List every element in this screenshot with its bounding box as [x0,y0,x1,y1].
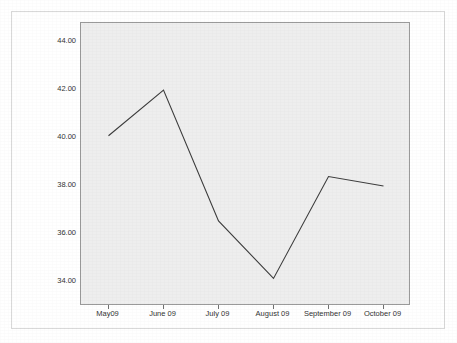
y-axis-tick-label: 42.00 [42,85,76,93]
x-axis-tick-label: September 09 [304,309,351,319]
x-axis-tick-mark [218,305,219,309]
x-axis-tick-label: June 09 [149,309,176,319]
x-axis-tick-label: May09 [96,309,119,319]
y-axis-tick-label: 40.00 [42,133,76,141]
y-axis-tick-label: 38.00 [42,181,76,189]
x-axis-tick-mark [383,305,384,309]
x-axis-tick-mark [273,305,274,309]
y-axis-tick-label: 34.00 [42,277,76,285]
x-axis-tick-labels: May09June 09July 09August 09September 09… [80,309,410,323]
x-axis-tick-label: October 09 [364,309,401,319]
x-axis-tick-mark [163,305,164,309]
y-axis-tick-label: 44.00 [42,37,76,45]
y-axis-tick-label: 36.00 [42,229,76,237]
y-axis-tick-labels: 34.0036.0038.0040.0042.0044.00 [40,22,76,305]
series-line-perceived-caregiver-strain [109,90,384,278]
x-axis-tick-label: August 09 [256,309,290,319]
x-axis-tick-mark [328,305,329,309]
plot-panel [80,22,410,305]
x-axis-tick-label: July 09 [206,309,230,319]
figure-canvas: Perceived Caregiver Strain 34.0036.0038.… [0,0,457,343]
line-chart-svg [81,23,411,306]
x-axis-tick-mark [108,305,109,309]
